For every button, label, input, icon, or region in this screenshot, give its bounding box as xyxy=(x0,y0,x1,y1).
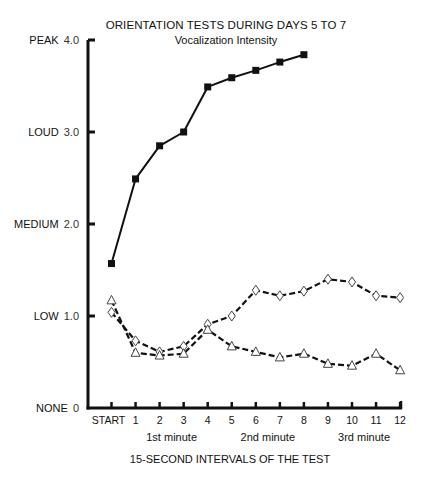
vocalization-intensity-chart: ORIENTATION TESTS DURING DAYS 5 TO 7 Voc… xyxy=(0,0,425,477)
triangle-marker xyxy=(107,295,116,304)
triangle-marker xyxy=(372,349,381,358)
x-tick-label: 8 xyxy=(301,414,307,426)
series-line xyxy=(112,300,401,370)
y-tick-word: MEDIUM xyxy=(14,218,59,230)
triangle-marker xyxy=(299,349,308,358)
y-tick-word: PEAK xyxy=(29,34,59,46)
square-marker xyxy=(156,142,163,149)
series-group xyxy=(107,51,405,374)
y-tick-number: 1.0 xyxy=(64,310,79,322)
series-open-triangle xyxy=(107,295,405,373)
y-tick-word: LOW xyxy=(34,310,60,322)
square-marker xyxy=(180,129,187,136)
diamond-marker xyxy=(397,293,404,303)
square-marker xyxy=(276,59,283,66)
x-tick-label: 12 xyxy=(394,414,406,426)
chart-title: ORIENTATION TESTS DURING DAYS 5 TO 7 xyxy=(106,19,347,31)
triangle-marker xyxy=(131,348,140,357)
triangle-marker xyxy=(227,341,236,350)
x-tick-label: 2 xyxy=(157,414,163,426)
y-tick-number: 2.0 xyxy=(64,218,79,230)
y-tick-label: MEDIUM2.0 xyxy=(14,218,79,230)
y-tick-word: LOUD xyxy=(28,126,59,138)
diamond-marker xyxy=(373,291,380,301)
series-open-diamond xyxy=(108,274,404,357)
y-tick-label: LOUD3.0 xyxy=(28,126,79,138)
square-marker xyxy=(252,67,259,74)
x-tick-label: 1 xyxy=(133,414,139,426)
x-tick-label: 5 xyxy=(229,414,235,426)
square-marker xyxy=(228,74,235,81)
x-tick-labels: START123456789101112 xyxy=(92,414,406,426)
minute-labels: 1st minute2nd minute3rd minute xyxy=(146,431,390,443)
x-tick-label: 11 xyxy=(371,414,382,426)
y-tick-number: 0 xyxy=(73,402,79,414)
x-tick-label: START xyxy=(92,414,126,426)
y-tick-number: 4.0 xyxy=(64,34,79,46)
x-tick-label: 4 xyxy=(205,414,211,426)
x-tick-label: 3 xyxy=(181,414,187,426)
x-tick-label: 7 xyxy=(277,414,283,426)
x-tick-label: 9 xyxy=(325,414,331,426)
diamond-marker xyxy=(300,286,307,296)
series-filled-square xyxy=(108,51,307,267)
diamond-marker xyxy=(252,285,259,295)
x-tick-label: 10 xyxy=(346,414,358,426)
square-marker xyxy=(108,260,115,267)
x-axis-label: 15-SECOND INTERVALS OF THE TEST xyxy=(130,453,331,465)
y-tick-label: LOW1.0 xyxy=(34,310,79,322)
square-marker xyxy=(132,175,139,182)
y-axis-labels: NONE0LOW1.0MEDIUM2.0LOUD3.0PEAK4.0 xyxy=(14,34,79,414)
diamond-marker xyxy=(132,336,139,346)
square-marker xyxy=(300,51,307,58)
square-marker xyxy=(204,83,211,90)
diamond-marker xyxy=(276,291,283,301)
minute-label: 2nd minute xyxy=(241,431,295,443)
diamond-marker xyxy=(324,274,331,284)
chart-subtitle: Vocalization Intensity xyxy=(175,34,278,46)
minute-label: 3rd minute xyxy=(338,431,390,443)
y-tick-label: PEAK4.0 xyxy=(29,34,79,46)
x-tick-label: 6 xyxy=(253,414,259,426)
diamond-marker xyxy=(349,277,356,287)
triangle-marker xyxy=(396,365,405,374)
y-tick-number: 3.0 xyxy=(64,126,79,138)
diamond-marker xyxy=(228,311,235,321)
y-tick-label: NONE0 xyxy=(36,402,79,414)
minute-label: 1st minute xyxy=(146,431,197,443)
y-tick-word: NONE xyxy=(36,402,68,414)
